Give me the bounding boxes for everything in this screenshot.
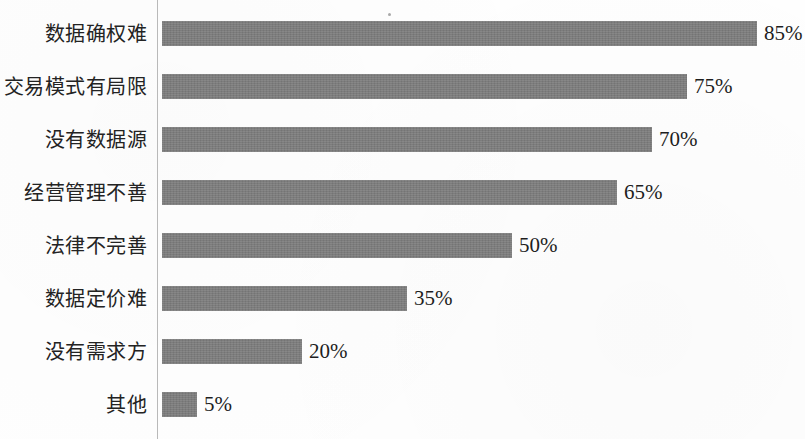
value-label: 65% [624, 180, 663, 205]
category-label: 没有需求方 [0, 339, 147, 365]
category-label: 法律不完善 [0, 233, 147, 259]
category-label: 没有数据源 [0, 127, 147, 153]
value-label: 50% [519, 233, 558, 258]
bar-row: 数据确权难 85% [0, 21, 805, 47]
bar-row: 没有数据源 70% [0, 127, 805, 153]
value-label: 5% [204, 392, 232, 417]
bar-row: 法律不完善 50% [0, 233, 805, 259]
bar-row: 交易模式有局限 75% [0, 74, 805, 100]
bar-row: 经营管理不善 65% [0, 180, 805, 206]
chart-page: 数据确权难 85% 交易模式有局限 75% 没有数据源 70% 经营管理不善 6… [0, 0, 805, 439]
bar[interactable] [162, 21, 757, 46]
value-label: 75% [694, 74, 733, 99]
category-label: 数据确权难 [0, 21, 147, 47]
bar[interactable] [162, 339, 302, 364]
bar-row: 没有需求方 20% [0, 339, 805, 365]
value-label: 85% [764, 21, 803, 46]
bar-row: 其他 5% [0, 392, 805, 418]
category-label: 数据定价难 [0, 286, 147, 312]
bar-row: 数据定价难 35% [0, 286, 805, 312]
scan-speck [388, 13, 391, 16]
bar[interactable] [162, 180, 617, 205]
category-axis-line [157, 0, 158, 439]
bar[interactable] [162, 286, 407, 311]
bar-chart-plot-area: 数据确权难 85% 交易模式有局限 75% 没有数据源 70% 经营管理不善 6… [0, 0, 805, 439]
bar[interactable] [162, 233, 512, 258]
category-label: 交易模式有局限 [0, 74, 147, 100]
value-label: 20% [309, 339, 348, 364]
category-label: 其他 [0, 392, 147, 418]
bar[interactable] [162, 74, 687, 99]
value-label: 35% [414, 286, 453, 311]
category-label: 经营管理不善 [0, 180, 147, 206]
bar[interactable] [162, 127, 652, 152]
value-label: 70% [659, 127, 698, 152]
bar[interactable] [162, 392, 197, 417]
